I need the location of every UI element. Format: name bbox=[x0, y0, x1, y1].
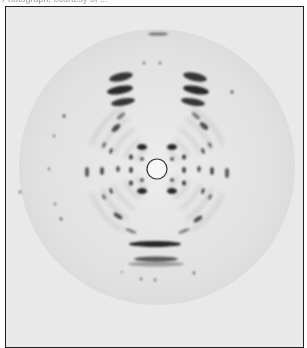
diffraction-spot bbox=[128, 262, 184, 267]
diffraction-spot bbox=[129, 241, 181, 247]
diffraction-spot bbox=[167, 144, 177, 150]
diffraction-spot bbox=[140, 157, 144, 161]
diffraction-spot bbox=[167, 188, 177, 194]
diffraction-spot bbox=[182, 181, 186, 186]
diffraction-spot bbox=[182, 167, 186, 173]
diffraction-spot bbox=[197, 166, 200, 172]
diffraction-spot bbox=[129, 181, 133, 186]
diffraction-spot bbox=[85, 167, 89, 177]
diffraction-spot bbox=[193, 272, 196, 275]
diffraction-spot bbox=[140, 178, 144, 182]
diffraction-spot bbox=[54, 203, 56, 205]
diffraction-spot bbox=[143, 62, 145, 64]
diffraction-spot bbox=[129, 155, 133, 160]
diffraction-spot bbox=[100, 167, 104, 175]
diffraction-photo-frame bbox=[5, 6, 304, 348]
beam-stop bbox=[147, 159, 167, 179]
diffraction-spot bbox=[63, 115, 66, 118]
diffraction-spot bbox=[182, 155, 186, 160]
diffraction-spot bbox=[159, 62, 161, 64]
photo-caption: Photograph, courtesy of ... bbox=[2, 0, 108, 4]
diffraction-pattern-image bbox=[6, 7, 304, 347]
diffraction-spot bbox=[140, 278, 142, 280]
diffraction-spot bbox=[231, 91, 234, 94]
diffraction-spot bbox=[170, 157, 174, 161]
diffraction-spot bbox=[48, 168, 50, 170]
diffraction-spot bbox=[170, 178, 174, 182]
diffraction-spot bbox=[60, 218, 63, 221]
diffraction-spot bbox=[137, 144, 147, 150]
diffraction-spot bbox=[154, 279, 156, 281]
diffraction-spot bbox=[134, 257, 178, 262]
diffraction-spot bbox=[129, 167, 133, 173]
diffraction-spot bbox=[53, 135, 55, 137]
diffraction-spot bbox=[121, 271, 123, 273]
diffraction-spot bbox=[148, 32, 168, 35]
diffraction-spot bbox=[137, 188, 147, 194]
diffraction-spot bbox=[19, 191, 22, 194]
diffraction-spot bbox=[116, 166, 119, 172]
diffraction-spot bbox=[225, 168, 229, 178]
diffraction-spot bbox=[210, 167, 214, 175]
